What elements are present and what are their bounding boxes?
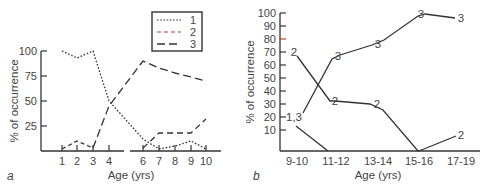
chart-b-point-label: 2 <box>458 129 464 141</box>
chart-a-ytick-100: 100 <box>19 45 37 57</box>
chart-b-point-label: 3 <box>418 8 424 20</box>
chart-b-series-1 <box>296 126 328 151</box>
chart-a-x-title: Age (yrs) <box>108 169 155 181</box>
chart-a-xtick: 8 <box>172 155 178 167</box>
chart-b-point-label: 2 <box>374 98 380 110</box>
chart-a-xtick: 7 <box>156 155 162 167</box>
legend-label-2: 2 <box>190 26 196 38</box>
chart-b-ytick: 70 <box>264 46 276 58</box>
chart-b-xtick: 11-12 <box>322 155 349 167</box>
chart-b-x-title: Age (yrs) <box>355 169 402 181</box>
chart-a-xtick: 9 <box>188 155 194 167</box>
chart-a-series-3 <box>93 61 206 148</box>
chart-a-y-title: % of occurrence <box>8 59 20 142</box>
figure: 100 75 50 25 1 2 3 4 6 7 8 9 10 Age (yrs… <box>0 0 486 187</box>
panel-label-b: b <box>253 169 260 183</box>
chart-a-xtick: 1 <box>59 155 65 167</box>
chart-b-ytick: 80 <box>264 33 276 45</box>
chart-b-point-label: 3 <box>335 50 341 62</box>
chart-b-point-label: 3 <box>458 12 464 24</box>
chart-a-ytick-50: 50 <box>25 95 37 107</box>
chart-a-xtick: 4 <box>106 155 112 167</box>
chart-b-point-label: 1,3 <box>286 111 302 123</box>
chart-b-ytick: 100 <box>258 7 276 19</box>
chart-b-xtick: 13-14 <box>364 155 392 167</box>
chart-a-xtick: 2 <box>74 155 80 167</box>
chart-b-ytick: 60 <box>264 59 276 71</box>
chart-b-ytick: 10 <box>264 124 276 136</box>
chart-b-ytick: 50 <box>264 72 276 84</box>
chart-a-xtick: 10 <box>200 155 212 167</box>
chart-a-xtick: 3 <box>90 155 96 167</box>
chart-b-ytick: 30 <box>264 98 276 110</box>
chart-a-ytick-75: 75 <box>25 70 37 82</box>
chart-a: 100 75 50 25 1 2 3 4 6 7 8 9 10 Age (yrs… <box>7 12 221 183</box>
chart-a-series-1 <box>62 51 206 149</box>
chart-b-point-label: 2 <box>291 46 297 58</box>
chart-a-ytick-25: 25 <box>25 120 37 132</box>
chart-b-ytick: 20 <box>264 111 276 123</box>
chart-b-point-label: 2 <box>332 95 338 107</box>
chart-a-y-ticks <box>41 51 47 126</box>
chart-a-x-ticks <box>62 145 206 151</box>
chart-a-legend: 1 2 3 <box>152 12 202 51</box>
chart-b-xtick: 17-19 <box>447 155 475 167</box>
chart-b-y-title: % of occurrence <box>244 40 256 123</box>
legend-label-1: 1 <box>190 14 196 26</box>
chart-a-series-2-late <box>143 119 206 148</box>
panel-label-a: a <box>7 169 14 183</box>
chart-b-xtick: 9-10 <box>286 155 308 167</box>
chart-a-xtick: 6 <box>140 155 146 167</box>
chart-b-point-label: 3 <box>375 38 381 50</box>
chart-b-ytick: 40 <box>264 85 276 97</box>
chart-b-xtick: 15-16 <box>405 155 433 167</box>
chart-b-ytick: 90 <box>264 20 276 32</box>
chart-b: 100 90 80 70 60 50 40 30 20 10 9-10 11-1… <box>244 7 480 183</box>
legend-label-3: 3 <box>190 38 196 50</box>
